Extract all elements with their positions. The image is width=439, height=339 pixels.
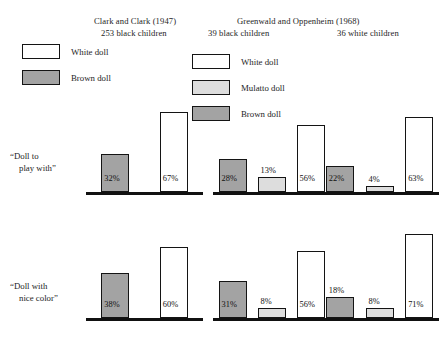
- legend-item-brown-doll: Brown doll: [22, 70, 111, 85]
- bar-group: 32%67%: [86, 92, 203, 195]
- study-sample-greenwald-black: 39 black children: [208, 28, 269, 38]
- bar-value-label: 13%: [261, 166, 276, 175]
- baseline: [213, 192, 330, 195]
- legend-swatch-brown-doll-icon: [22, 70, 60, 85]
- bar-value-label: 63%: [408, 174, 423, 183]
- bar-group: 28%13%56%: [213, 92, 330, 195]
- bar-value-label: 22%: [329, 174, 344, 183]
- baseline: [213, 318, 330, 321]
- bar-mulatto: [366, 308, 394, 318]
- bar-brown: [101, 154, 129, 192]
- legend-label-white-doll: White doll: [71, 47, 108, 57]
- legend-swatch-white-doll-icon: [22, 44, 60, 59]
- legend-swatch-white-doll-icon: [192, 54, 230, 69]
- baseline: [320, 318, 439, 321]
- legend-item-white-doll: White doll: [192, 54, 285, 69]
- baseline: [86, 318, 203, 321]
- study-sample-greenwald-white: 36 white children: [337, 28, 399, 38]
- bar-value-label: 32%: [104, 174, 119, 183]
- bar-mulatto: [258, 308, 286, 318]
- row-label-line1: “Doll to: [10, 151, 39, 161]
- bar-group: 22%4%63%: [320, 92, 439, 195]
- bar-brown: [101, 273, 129, 318]
- baseline: [320, 192, 439, 195]
- study-sample-clark: 253 black children: [101, 28, 167, 38]
- doll-preference-figure: Clark and Clark (1947) 253 black childre…: [0, 0, 439, 339]
- bar-value-label: 60%: [163, 300, 178, 309]
- bar-value-label: 71%: [408, 300, 423, 309]
- legend-label-mulatto-doll: Mulatto doll: [241, 83, 285, 93]
- bar-group: 18%8%71%: [320, 218, 439, 321]
- legend-clark: White doll Brown doll: [22, 44, 111, 96]
- row-label-doll-to-play-with: “Doll to play with”: [10, 150, 56, 174]
- bar-value-label: 18%: [329, 286, 344, 295]
- bar-value-label: 38%: [104, 300, 119, 309]
- legend-label-brown-doll: Brown doll: [71, 73, 111, 83]
- study-title-clark: Clark and Clark (1947): [94, 16, 176, 26]
- bar-value-label: 31%: [222, 300, 237, 309]
- bar-brown: [326, 297, 354, 318]
- baseline: [86, 192, 203, 195]
- bar-group: 38%60%: [86, 218, 203, 321]
- bar-value-label: 28%: [222, 174, 237, 183]
- bar-value-label: 56%: [300, 300, 315, 309]
- bar-value-label: 56%: [300, 174, 315, 183]
- bar-group: 31%8%56%: [213, 218, 330, 321]
- bar-value-label: 4%: [369, 175, 380, 184]
- bar-mulatto: [366, 186, 394, 192]
- legend-item-white-doll: White doll: [22, 44, 111, 59]
- bar-value-label: 8%: [261, 297, 272, 306]
- row-label-line2: play with”: [10, 162, 56, 174]
- legend-label-white-doll: White doll: [241, 57, 278, 67]
- row-label-doll-with-nice-color: “Doll with nice color”: [10, 280, 58, 304]
- row-label-line2: nice color”: [10, 292, 58, 304]
- bar-value-label: 67%: [163, 174, 178, 183]
- bar-value-label: 8%: [369, 297, 380, 306]
- row-label-line1: “Doll with: [10, 281, 47, 291]
- study-title-greenwald: Greenwald and Oppenheim (1968): [237, 16, 360, 26]
- bar-mulatto: [258, 177, 286, 192]
